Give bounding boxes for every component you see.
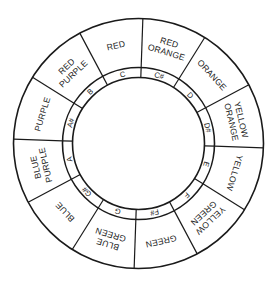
note-divider	[173, 79, 178, 87]
sector-dividers	[14, 19, 264, 269]
color-label-red-purple: REDPURPLE	[50, 51, 90, 90]
color-label-purple: PURPLE	[32, 96, 52, 133]
note-label-a: A	[64, 155, 74, 163]
outer-ring	[14, 19, 264, 269]
note-label-g: G	[114, 206, 122, 216]
sector-divider	[72, 208, 98, 250]
color-label-blue-green: BLUEGREEN	[91, 225, 127, 253]
note-divider	[169, 202, 174, 211]
sector-divider	[141, 19, 143, 68]
note-label-g-sharp: G#	[79, 184, 93, 198]
color-label-blue: BLUE	[53, 200, 76, 224]
note-divider	[194, 178, 202, 183]
color-labels: REDORANGEORANGEYELLOWORANGEYELLOWYELLOWG…	[27, 32, 251, 254]
inner-ring	[73, 78, 205, 210]
color-label-yellow-green: YELLOWGREEN	[186, 197, 227, 237]
note-divider	[98, 199, 103, 207]
color-label-red-orange: REDORANGE	[147, 32, 190, 62]
sector-divider	[214, 146, 263, 148]
note-label-c: C	[119, 69, 127, 79]
note-divider	[197, 108, 206, 113]
note-labels: C#DD#EFF#GG#AA#BC	[64, 69, 213, 218]
note-label-e: E	[201, 160, 211, 167]
note-divider	[74, 103, 82, 108]
color-label-red: RED	[106, 39, 127, 53]
color-label-orange: ORANGE	[195, 57, 229, 92]
color-music-wheel: REDORANGEORANGEYELLOWORANGEYELLOWYELLOWG…	[0, 0, 274, 282]
note-divider	[71, 174, 80, 179]
color-label-blue-purple: BLUEPURPLE	[27, 146, 55, 185]
color-label-yellow: YELLOW	[224, 154, 245, 193]
note-divider	[103, 76, 108, 85]
sector-divider	[14, 139, 63, 141]
sector-divider	[134, 219, 136, 268]
color-label-yellow-orange: YELLOWORANGE	[222, 100, 250, 142]
color-label-green: GREEN	[145, 233, 178, 250]
wheel-rings	[14, 19, 264, 269]
